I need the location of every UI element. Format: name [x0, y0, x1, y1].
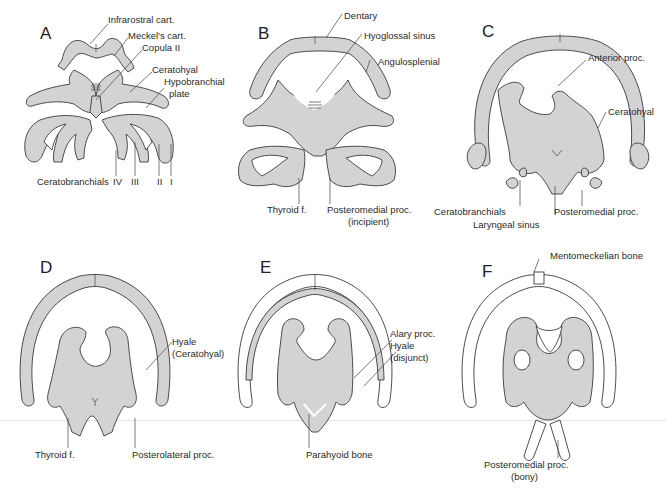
panel-letter-e: E	[260, 258, 271, 278]
label-alary-proc: Alary proc.	[390, 328, 435, 339]
label-parahyoid-bone: Parahyoid bone	[306, 449, 373, 460]
panel-a-drawing	[25, 38, 173, 163]
label-infrarostral-cart: Infrarostral cart.	[108, 14, 175, 25]
label-ceratobranchial-ii: II	[157, 176, 162, 187]
label-posteromedial-proc: Posteromedial proc.	[327, 204, 411, 215]
label-ceratohyal-paren: (Ceratohyal)	[172, 348, 224, 359]
label-dentary: Dentary	[344, 10, 377, 21]
label-ceratobranchial-iv: IV	[113, 176, 122, 187]
hyobranchial-diagram-drawings	[0, 0, 666, 489]
label-laryngeal-sinus: Laryngeal sinus	[473, 219, 540, 230]
label-angulosplenial: Angulosplenial	[378, 56, 440, 67]
label-plate: plate	[169, 88, 190, 99]
panel-e-drawing	[238, 274, 392, 432]
label-ceratohyal: Ceratohyal	[152, 64, 198, 75]
label-ceratobranchials: Ceratobranchials	[434, 206, 506, 217]
label-ceratohyal: Ceratohyal	[608, 106, 654, 117]
panel-letter-a: A	[40, 24, 51, 44]
label-bony: (bony)	[511, 471, 538, 482]
panel-b-drawing	[238, 36, 395, 187]
label-hyale: Hyale	[172, 336, 196, 347]
label-hyoglossal-sinus: Hyoglossal sinus	[364, 30, 435, 41]
panel-letter-f: F	[482, 262, 492, 282]
panel-d-drawing	[20, 274, 170, 436]
label-hyale: Hyale	[390, 340, 414, 351]
label-hypobranchial: Hypobranchial	[164, 76, 225, 87]
panel-f-drawing	[462, 272, 616, 461]
label-meckels-cart: Meckel's cart.	[128, 30, 186, 41]
panel-letter-c: C	[482, 22, 494, 42]
label-mentomeckelian-bone: Mentomeckelian bone	[550, 250, 643, 261]
label-anterior-proc: Anterior proc.	[588, 52, 645, 63]
label-copula-ii: Copula II	[142, 42, 180, 53]
label-ceratobranchial-iii: III	[131, 176, 139, 187]
label-incipient: (incipient)	[348, 216, 389, 227]
label-posteromedial-proc: Posteromedial proc.	[554, 206, 638, 217]
label-ceratobranchials: Ceratobranchials	[37, 176, 109, 187]
panel-letter-b: B	[258, 24, 269, 44]
label-posterolateral-proc: Posterolateral proc.	[132, 449, 214, 460]
label-disjunct: (disjunct)	[390, 352, 429, 363]
panel-letter-d: D	[40, 258, 52, 278]
label-thyroid-f: Thyroid f.	[35, 449, 75, 460]
label-ceratobranchial-i: I	[170, 176, 173, 187]
label-thyroid-f: Thyroid f.	[267, 204, 307, 215]
label-posteromedial-proc: Posteromedial proc.	[484, 459, 568, 470]
